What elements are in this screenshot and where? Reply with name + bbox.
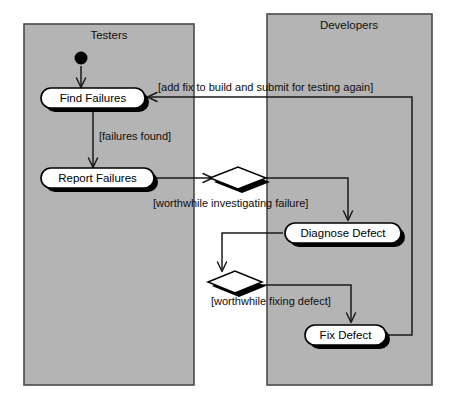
guard-label-worthwhile-investigating-failure: [worthwhile investigating failure] (153, 197, 308, 209)
uml-activity-diagram-canvas: Testers Developers (0, 0, 451, 410)
action-label: Diagnose Defect (300, 227, 386, 239)
action-label: Find Failures (60, 92, 127, 104)
activity-diagram: Testers Developers (0, 0, 451, 410)
guard-label-worthwhile-fixing-defect: [worthwhile fixing defect] (211, 295, 331, 307)
action-fix-defect[interactable]: Fix Defect (305, 325, 390, 349)
action-label: Report Failures (58, 172, 137, 184)
action-report-failures[interactable]: Report Failures (41, 168, 158, 192)
guard-label-failures-found: [failures found] (99, 130, 171, 142)
guard-label-add-fix-to-build: [add fix to build and submit for testing… (158, 81, 373, 93)
decision-investigate-failure[interactable] (210, 167, 270, 193)
swimlane-developers-title: Developers (320, 19, 378, 31)
action-diagnose-defect[interactable]: Diagnose Defect (285, 223, 405, 247)
action-find-failures[interactable]: Find Failures (41, 88, 149, 112)
decision-fix-defect[interactable] (208, 271, 266, 297)
initial-node-icon (75, 52, 88, 65)
swimlane-testers-title: Testers (90, 29, 127, 41)
action-label: Fix Defect (320, 329, 373, 341)
initial-node[interactable] (75, 52, 88, 65)
